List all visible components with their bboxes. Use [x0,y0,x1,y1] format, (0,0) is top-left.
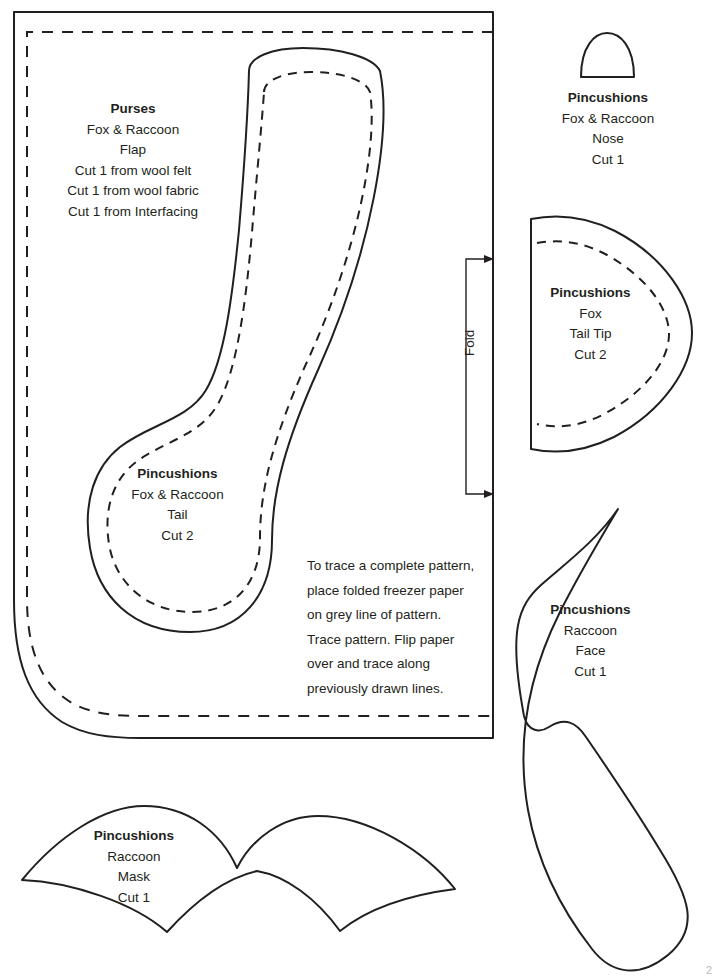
label-purses-line5: Cut 1 from Interfacing [48,202,218,223]
fold-arrow-line [466,259,487,494]
nose-cut-line [581,33,634,77]
pattern-sheet: Purses Fox & Raccoon Flap Cut 1 from woo… [0,0,714,977]
label-pincushions-tail: Pincushions Fox & Raccoon Tail Cut 2 [95,464,260,546]
trace-note-line-2: place folded freezer paper [307,579,507,604]
label-tailtip-line1: Fox [512,304,669,325]
label-pincushions-tail-tip: Pincushions Fox Tail Tip Cut 2 [512,283,669,365]
trace-note-line-1: To trace a complete pattern, [307,554,507,579]
label-face-title: Pincushions [512,600,669,621]
label-tailtip-line2: Tail Tip [512,324,669,345]
label-face-line2: Face [512,641,669,662]
trace-note-line-5: over and trace along [307,652,507,677]
trace-note-line-3: on grey line of pattern. [307,603,507,628]
trace-note-line-6: previously drawn lines. [307,677,507,702]
label-pincushions-face: Pincushions Raccoon Face Cut 1 [512,600,669,682]
label-purses-line2: Flap [48,140,218,161]
fold-label: Fold [462,330,477,356]
label-pincushions-mask: Pincushions Raccoon Mask Cut 1 [58,826,210,908]
label-nose-line1: Fox & Raccoon [528,109,688,130]
label-purses-line1: Fox & Raccoon [48,120,218,141]
trace-note-line-4: Trace pattern. Flip paper [307,628,507,653]
label-face-line1: Raccoon [512,621,669,642]
label-nose-line3: Cut 1 [528,150,688,171]
label-mask-title: Pincushions [58,826,210,847]
label-tail-line1: Fox & Raccoon [95,485,260,506]
label-purses-line3: Cut 1 from wool felt [48,161,218,182]
label-mask-line2: Mask [58,867,210,888]
label-mask-line3: Cut 1 [58,888,210,909]
label-purses-line4: Cut 1 from wool fabric [48,181,218,202]
label-tailtip-line3: Cut 2 [512,345,669,366]
label-mask-line1: Raccoon [58,847,210,868]
label-nose-title: Pincushions [528,88,688,109]
label-tailtip-title: Pincushions [512,283,669,304]
label-face-line3: Cut 1 [512,662,669,683]
label-nose-line2: Nose [528,129,688,150]
label-pincushions-nose: Pincushions Fox & Raccoon Nose Cut 1 [528,88,688,170]
trace-instructions: To trace a complete pattern, place folde… [307,554,507,701]
label-purses-title: Purses [48,99,218,120]
label-tail-line3: Cut 2 [95,526,260,547]
face-cut-line [516,509,688,971]
page-number: 2 [706,964,712,976]
label-tail-line2: Tail [95,505,260,526]
label-tail-title: Pincushions [95,464,260,485]
label-purses-flap: Purses Fox & Raccoon Flap Cut 1 from woo… [48,99,218,222]
